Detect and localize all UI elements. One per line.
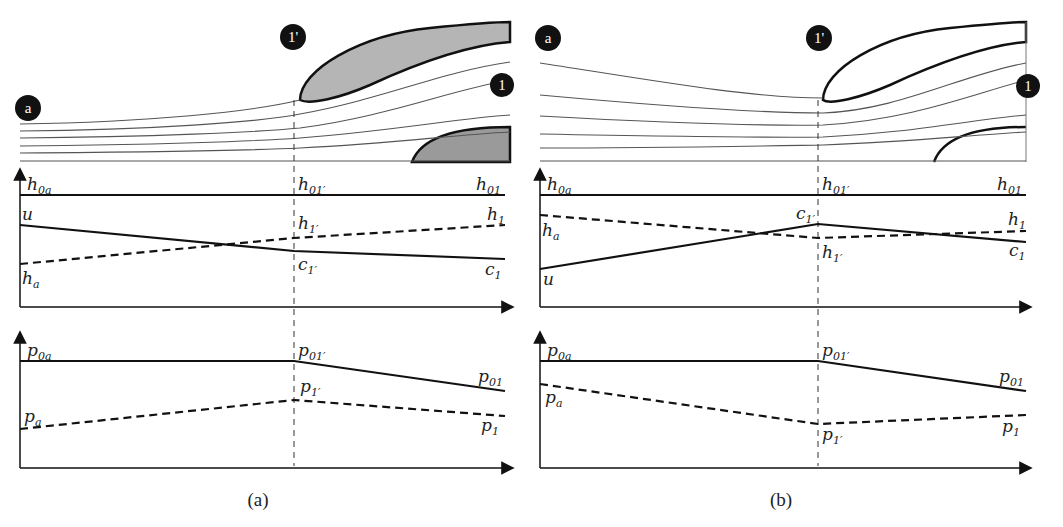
label-ha: ha — [22, 268, 40, 291]
caption-a: (a) — [247, 489, 268, 511]
svg-text:1: 1 — [1024, 78, 1032, 94]
blade-upper — [300, 22, 510, 102]
station-badge-1: 1 — [1016, 74, 1040, 98]
label-h0a: h0a — [547, 174, 572, 197]
p-line — [20, 400, 505, 429]
pressure-plot-b: p0a p01′ p01 pa p1′ p1 — [540, 333, 1030, 468]
station-badge-a: a — [15, 95, 41, 121]
u-c-line — [20, 225, 505, 259]
label-p1p: p1′ — [822, 424, 843, 447]
caption-b: (b) — [770, 489, 792, 511]
label-p01p: p01′ — [298, 340, 326, 363]
enthalpy-plot-a: h0a h01′ h01 u h1′ h1 c1′ c1 ha — [20, 170, 512, 307]
p0-line — [20, 361, 505, 391]
label-c1: c1 — [485, 259, 502, 282]
svg-text:1: 1 — [498, 77, 506, 93]
label-p1p: p1′ — [300, 376, 321, 399]
figure: a 1' 1 h0a h01′ h01 u h1′ h1 c1′ — [0, 0, 1063, 527]
blade-upper — [823, 22, 1026, 102]
label-h1p: h1′ — [298, 213, 319, 236]
label-ha: ha — [542, 220, 560, 243]
flow-field-a: a 1' 1 — [15, 22, 514, 162]
label-h01: h01 — [476, 174, 501, 197]
panel-a: a 1' 1 h0a h01′ h01 u h1′ h1 c1′ — [15, 22, 514, 511]
label-pa: pa — [545, 387, 562, 410]
flow-field-b: a 1' 1 — [535, 22, 1040, 162]
label-p01p: p01′ — [822, 340, 850, 363]
label-pa: pa — [24, 406, 41, 429]
svg-text:1': 1' — [288, 29, 299, 45]
label-h1: h1 — [487, 204, 505, 227]
label-h01p: h01′ — [822, 174, 850, 197]
label-h0a: h0a — [27, 174, 52, 197]
label-c1: c1 — [1009, 240, 1026, 263]
station-badge-1prime: 1' — [280, 24, 306, 50]
svg-text:1': 1' — [814, 30, 825, 46]
blade-lower — [412, 127, 510, 162]
u-c-line — [540, 224, 1026, 269]
label-p0a: p0a — [27, 340, 51, 363]
h-line — [540, 215, 1026, 238]
label-c1p: c1′ — [796, 203, 816, 226]
label-p01: p01 — [999, 366, 1024, 389]
enthalpy-plot-b: h0a h01′ h01 c1′ h1 ha h1′ c1 u — [540, 170, 1030, 307]
station-badge-1prime: 1' — [806, 25, 832, 51]
label-p01: p01 — [478, 366, 503, 389]
label-h1p: h1′ — [822, 242, 843, 265]
label-c1p: c1′ — [298, 254, 318, 277]
label-h01p: h01′ — [298, 174, 326, 197]
p0-line — [540, 361, 1026, 391]
label-p0a: p0a — [547, 340, 571, 363]
p-line — [540, 384, 1026, 424]
station-badge-1: 1 — [490, 73, 514, 97]
panel-b: a 1' 1 h0a h01′ h01 c1′ h1 ha h1′ — [535, 22, 1040, 511]
svg-text:a: a — [545, 30, 552, 46]
label-h01: h01 — [997, 174, 1022, 197]
label-p1: p1 — [1002, 416, 1020, 439]
station-badge-a: a — [535, 25, 561, 51]
svg-text:a: a — [25, 100, 32, 116]
streamlines — [540, 63, 1026, 161]
blade-lower — [934, 127, 1026, 162]
pressure-plot-a: p0a p01′ p01 p1′ pa p1 — [20, 333, 512, 468]
label-h1: h1 — [1008, 209, 1026, 232]
label-u: u — [22, 204, 33, 224]
label-p1: p1 — [481, 415, 499, 438]
label-u: u — [543, 269, 554, 289]
